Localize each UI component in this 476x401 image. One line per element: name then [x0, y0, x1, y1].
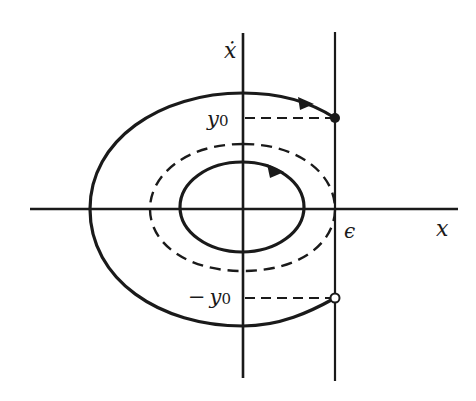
outer-arrow-icon — [298, 97, 314, 110]
epsilon-label: ϵ — [344, 219, 355, 243]
neg-y0-label: −y0 — [188, 285, 231, 309]
filled-point — [330, 113, 340, 123]
x-label: x — [436, 216, 449, 241]
phase-plane-diagram: ẋ x ϵ y0 −y0 — [0, 0, 476, 401]
open-point — [331, 294, 340, 303]
y0-label: y0 — [206, 107, 228, 131]
xdot-label: ẋ — [224, 38, 237, 63]
inner-arrow-icon — [267, 164, 284, 178]
